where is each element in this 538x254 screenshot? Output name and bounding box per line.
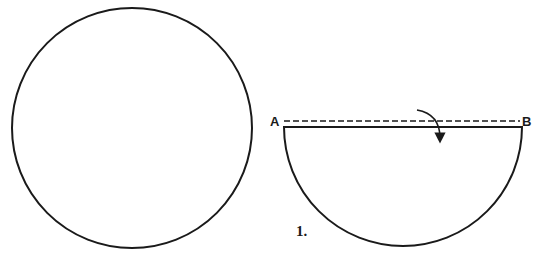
fold-arrow-icon bbox=[417, 110, 440, 138]
semicircle-shape bbox=[284, 127, 522, 246]
point-label-b: B bbox=[522, 114, 531, 129]
half-circle-figure: A B 1. bbox=[270, 110, 531, 246]
fold-diagram: A B 1. bbox=[0, 0, 538, 254]
step-number: 1. bbox=[296, 223, 308, 239]
full-circle bbox=[12, 8, 252, 248]
point-label-a: A bbox=[270, 114, 280, 129]
